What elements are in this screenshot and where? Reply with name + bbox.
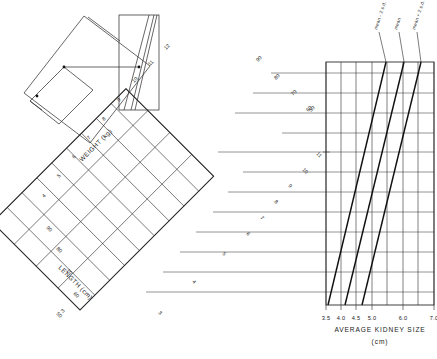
kidney-axis-unit: (cm) xyxy=(372,338,389,346)
weight-edge-tick: 4 xyxy=(191,278,197,284)
length-edge-tick: 70 xyxy=(289,88,297,96)
kidney-tick: 4.5 xyxy=(352,315,361,321)
length-tick: 60 xyxy=(72,290,80,298)
weight-edge-tick: 3 xyxy=(157,309,163,315)
inset-node-b xyxy=(138,66,141,69)
regression-line-minus2sd xyxy=(328,62,386,305)
kidney-size-panel: mean - 2 s.d. mean mean + 2 s.d. 3.5 4.0… xyxy=(322,0,437,346)
regression-label-mean: mean xyxy=(393,17,402,30)
kidney-tick: 5.0 xyxy=(368,315,377,321)
weight-edge-tick: 6 xyxy=(245,230,251,236)
weight-edge-tick: 7 xyxy=(259,214,265,220)
length-tick: 80 xyxy=(55,245,63,253)
lattice-right-edge-labels: 90 80 70 60 50 xyxy=(254,54,315,112)
inset-node-c xyxy=(36,95,39,98)
regression-leaders xyxy=(379,32,421,62)
weight-tick: 4 xyxy=(40,192,46,198)
weight-edge-tick: 8 xyxy=(273,198,279,204)
weight-tick: 7 xyxy=(85,134,91,140)
kidney-tick: 3.5 xyxy=(322,315,331,321)
panel-vertical-gridlines xyxy=(326,62,434,305)
weight-axis-title: WEIGHT (kg) xyxy=(78,127,114,163)
regression-line-plus2sd xyxy=(362,62,421,305)
inset-node-a xyxy=(63,66,66,69)
regression-label-plus2sd: mean + 2 s.d. xyxy=(411,0,425,30)
weight-edge-tick: 5 xyxy=(221,250,227,256)
tie-lines xyxy=(146,73,434,292)
weight-edge-tick: 11 xyxy=(315,150,323,158)
lattice-lower-right-labels: 11 10 9 8 7 6 5 4 3 xyxy=(157,150,323,315)
kidney-tick: 4.0 xyxy=(337,315,346,321)
weight-tick: 6 xyxy=(70,153,76,159)
panel-bottom-ticks xyxy=(326,305,434,310)
weight-tick: 11 xyxy=(146,59,154,67)
regression-label-minus2sd: mean - 2 s.d. xyxy=(373,1,387,31)
kidney-axis-tick-labels: 3.5 4.0 4.5 5.0 6.0 7.0 xyxy=(322,315,437,321)
weight-tick: 8 xyxy=(100,115,106,121)
length-edge-tick: 90 xyxy=(254,54,262,62)
weight-edge-tick: 10 xyxy=(301,166,309,174)
weight-tick: 12 xyxy=(162,42,170,50)
weight-tick-labels: 3 4 5 6 7 8 9 10 11 12 xyxy=(40,42,170,313)
weight-edge-tick: 9 xyxy=(287,182,293,188)
nomogram-figure: 3 4 5 6 7 8 9 10 11 12 WEIGHT (kg) 50 60… xyxy=(0,0,437,359)
length-edge-tick: 80 xyxy=(272,72,280,80)
weight-tick: 5 xyxy=(55,172,61,178)
length-tick: 90 xyxy=(45,224,53,232)
kidney-tick: 7.0 xyxy=(430,315,437,321)
kidney-axis-title: AVERAGE KIDNEY SIZE xyxy=(334,326,425,333)
regression-line-mean xyxy=(345,62,404,305)
kidney-tick: 6.0 xyxy=(399,315,408,321)
